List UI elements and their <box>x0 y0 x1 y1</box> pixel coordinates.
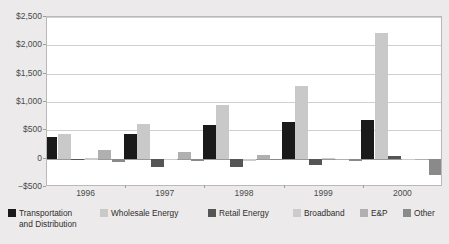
chart-title <box>40 0 340 4</box>
chart-legend: Transportationand DistributionWholesale … <box>8 208 445 240</box>
bar <box>295 86 308 159</box>
bar <box>203 125 216 159</box>
y-axis-tick-label: $2,000 <box>0 39 42 49</box>
legend-label: Transportationand Distribution <box>19 208 77 229</box>
bar <box>71 159 84 160</box>
x-axis-tick-label: 1996 <box>76 188 95 198</box>
x-axis-tick-mark <box>284 185 285 188</box>
x-axis-tick-mark <box>363 185 364 188</box>
bar <box>98 150 111 159</box>
legend-label-line2: and Distribution <box>19 219 77 230</box>
legend-label-line1: Other <box>414 208 435 218</box>
bar <box>46 137 57 159</box>
bar <box>164 159 177 161</box>
legend-item[interactable]: Retail Energy <box>208 208 269 219</box>
legend-label: Retail Energy <box>219 208 269 219</box>
legend-label-line1: E&P <box>371 208 388 218</box>
y-axis-tick-label: $2,500 <box>0 11 42 21</box>
y-axis-labels: $2,500$2,000$1,500$1,000$5000−$500 <box>0 16 42 186</box>
x-axis-tick-mark <box>204 185 205 188</box>
plot-wrapper <box>46 16 442 186</box>
bar <box>270 159 283 161</box>
plot-area <box>46 16 442 186</box>
bar <box>124 134 137 159</box>
bar <box>402 159 415 160</box>
bar <box>58 134 71 158</box>
legend-swatch-icon <box>8 209 16 217</box>
bar <box>216 105 229 158</box>
bar <box>243 159 256 161</box>
legend-item[interactable]: Transportationand Distribution <box>8 208 77 229</box>
legend-label-line1: Retail Energy <box>219 208 269 218</box>
y-axis-tick-label: $1,500 <box>0 68 42 78</box>
y-axis-tick-label: $1,000 <box>0 96 42 106</box>
y-axis-tick-label: 0 <box>0 153 42 163</box>
y-axis-tick-mark <box>43 186 46 187</box>
bar <box>309 159 322 165</box>
legend-swatch-icon <box>403 209 411 217</box>
bar <box>137 124 150 159</box>
bar <box>388 156 401 159</box>
x-axis-tick-label: 1998 <box>235 188 254 198</box>
legend-swatch-icon <box>100 209 108 217</box>
bar <box>257 155 270 158</box>
legend-swatch-icon <box>360 209 368 217</box>
bar <box>429 159 442 175</box>
gridline <box>47 17 441 18</box>
x-axis-labels: 19961997199819992000 <box>46 188 442 202</box>
legend-item[interactable]: E&P <box>360 208 388 219</box>
legend-label: Other <box>414 208 435 219</box>
legend-item[interactable]: Other <box>403 208 435 219</box>
legend-label-line1: Transportation <box>19 208 72 218</box>
bar <box>151 159 164 167</box>
legend-label-line1: Wholesale Energy <box>111 208 178 218</box>
x-axis-tick-label: 1997 <box>155 188 174 198</box>
legend-label: E&P <box>371 208 388 219</box>
bar <box>361 120 374 159</box>
bar <box>230 159 243 167</box>
bar <box>415 159 428 160</box>
x-axis-tick-label: 2000 <box>393 188 412 198</box>
bar <box>85 158 98 159</box>
bar <box>322 158 335 159</box>
legend-label: Broadband <box>304 208 345 219</box>
legend-item[interactable]: Broadband <box>293 208 345 219</box>
legend-label-line1: Broadband <box>304 208 345 218</box>
bar <box>336 159 349 161</box>
bar <box>282 122 295 158</box>
chart-container: $2,500$2,000$1,500$1,000$5000−$500 19961… <box>0 0 449 244</box>
bar <box>375 33 388 159</box>
y-axis-tick-label: $500 <box>0 124 42 134</box>
bar <box>191 159 204 161</box>
bar <box>178 152 191 159</box>
bar <box>112 159 125 162</box>
x-axis-tick-label: 1999 <box>314 188 333 198</box>
legend-swatch-icon <box>293 209 301 217</box>
legend-label: Wholesale Energy <box>111 208 178 219</box>
bar <box>349 159 362 161</box>
legend-swatch-icon <box>208 209 216 217</box>
x-axis-tick-mark <box>125 185 126 188</box>
y-axis-tick-label: −$500 <box>0 181 42 191</box>
legend-item[interactable]: Wholesale Energy <box>100 208 178 219</box>
